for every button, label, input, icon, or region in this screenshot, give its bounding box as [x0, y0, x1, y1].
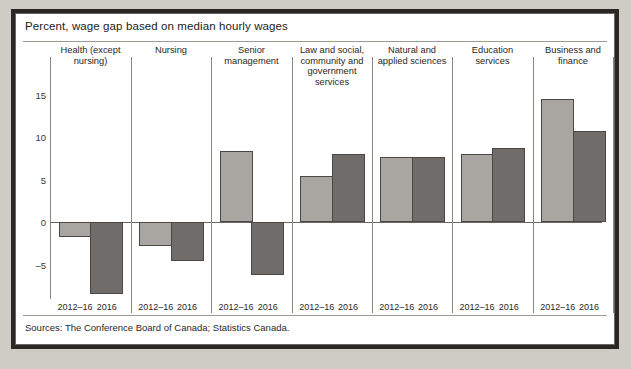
x-axis-label-5-1: 2016	[499, 302, 519, 312]
bar-0-1	[90, 222, 123, 294]
bar-1-0	[139, 222, 172, 246]
x-axis-label-2-1: 2016	[258, 302, 278, 312]
bar-3-1	[332, 154, 365, 222]
x-axis-label-6-1: 2016	[579, 302, 599, 312]
x-axis-label-1-1: 2016	[177, 302, 197, 312]
bar-4-1	[412, 157, 445, 222]
bar-3-0	[300, 176, 333, 222]
y-axis-tick-3: 0	[41, 217, 46, 228]
category-label-4: Natural and applied sciences	[375, 45, 449, 66]
category-label-2: Senior management	[214, 45, 289, 66]
bar-4-0	[380, 157, 413, 222]
group-separator-2	[211, 57, 212, 313]
bar-6-0	[541, 99, 574, 222]
chart-panel: Percent, wage gap based on median hourly…	[11, 9, 619, 349]
panel-title: Percent, wage gap based on median hourly…	[25, 20, 288, 32]
x-axis-label-4-1: 2016	[418, 302, 438, 312]
y-axis-line	[50, 57, 51, 299]
x-axis-label-5-0: 2012–16	[460, 302, 495, 312]
x-axis-label-2-0: 2012–16	[219, 302, 254, 312]
x-axis-label-3-1: 2016	[338, 302, 358, 312]
group-separator-4	[372, 57, 373, 313]
bar-5-1	[492, 148, 525, 222]
y-axis-tick-4: –5	[35, 259, 46, 270]
x-axis-label-0-1: 2016	[97, 302, 117, 312]
plot-area: 151050–5Health (except nursing)2012–1620…	[39, 43, 614, 313]
bar-5-0	[461, 154, 494, 222]
y-axis-tick-1: 10	[35, 132, 46, 143]
group-separator-7	[613, 57, 614, 313]
bar-6-1	[573, 131, 606, 222]
zero-line	[50, 222, 602, 223]
x-axis-label-6-0: 2012–16	[540, 302, 575, 312]
bar-1-1	[171, 222, 204, 261]
source-divider	[23, 315, 607, 316]
category-label-3: Law and social, community and government…	[295, 45, 369, 87]
category-label-1: Nursing	[134, 45, 208, 56]
x-axis-label-4-0: 2012–16	[379, 302, 414, 312]
group-separator-3	[292, 57, 293, 313]
screenshot-root: Percent, wage gap based on median hourly…	[0, 0, 631, 369]
bar-0-0	[59, 222, 92, 237]
x-axis-label-0-0: 2012–16	[58, 302, 93, 312]
x-axis-label-3-0: 2012–16	[299, 302, 334, 312]
y-axis-tick-2: 5	[41, 174, 46, 185]
y-axis-tick-0: 15	[35, 89, 46, 100]
group-separator-6	[533, 57, 534, 313]
category-label-5: Education services	[455, 45, 530, 66]
bar-2-1	[251, 222, 284, 275]
group-separator-1	[131, 57, 132, 313]
category-label-0: Health (except nursing)	[53, 45, 128, 66]
group-separator-5	[452, 57, 453, 313]
bar-2-0	[220, 151, 253, 222]
category-label-6: Business and finance	[536, 45, 610, 66]
x-axis-label-1-0: 2012–16	[138, 302, 173, 312]
source-note: Sources: The Conference Board of Canada;…	[25, 322, 289, 333]
title-divider	[23, 41, 607, 42]
